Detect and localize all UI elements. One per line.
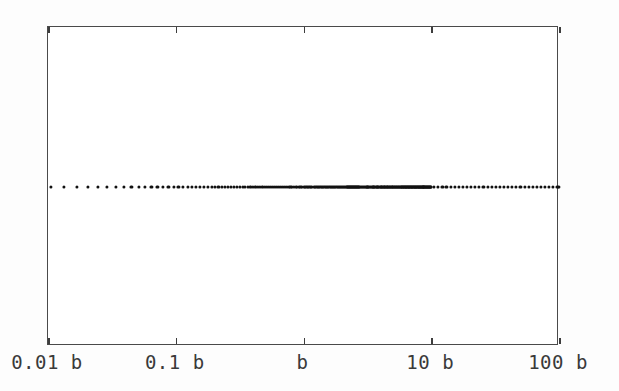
data-point (414, 185, 417, 188)
data-point (552, 185, 555, 188)
data-point (381, 185, 384, 188)
data-point (392, 185, 395, 188)
data-point (312, 185, 315, 188)
data-point (340, 185, 343, 188)
data-point (482, 185, 485, 188)
data-point (410, 185, 413, 188)
data-point (368, 185, 371, 188)
data-point (335, 185, 338, 188)
x-tick-top-0 (48, 27, 50, 33)
data-point (294, 185, 297, 188)
data-point (364, 185, 367, 188)
data-point (469, 185, 472, 188)
x-tick-bottom-0 (48, 338, 50, 344)
data-point (203, 185, 206, 188)
data-point (343, 185, 346, 188)
data-point (321, 185, 324, 188)
data-point (378, 185, 381, 188)
data-point (418, 185, 421, 188)
data-point (367, 185, 370, 188)
data-point (156, 185, 159, 188)
data-point (86, 185, 89, 188)
x-tick-label-4: 100 b (528, 351, 588, 373)
data-point (259, 185, 262, 188)
data-point (267, 185, 270, 188)
data-point (416, 185, 419, 188)
data-point (365, 185, 368, 188)
data-point (96, 185, 99, 188)
data-point (349, 185, 352, 188)
data-point (382, 185, 385, 188)
data-point (376, 185, 379, 188)
data-point (329, 185, 332, 188)
data-point (527, 185, 530, 188)
data-point (281, 185, 284, 188)
data-point (265, 185, 268, 188)
data-point (244, 185, 247, 188)
x-tick-label-3: 10 b (406, 351, 454, 373)
data-point (311, 185, 314, 188)
data-point (306, 185, 309, 188)
data-point (199, 185, 202, 188)
data-point (289, 185, 292, 188)
data-point (414, 185, 417, 188)
data-point (302, 185, 305, 188)
data-point (350, 185, 353, 188)
data-point (167, 185, 170, 188)
data-point (411, 185, 414, 188)
data-point (210, 185, 213, 188)
data-point (415, 185, 418, 188)
x-tick-bottom-1 (176, 338, 178, 344)
data-point (292, 185, 295, 188)
data-point (297, 185, 300, 188)
data-point (401, 185, 404, 188)
data-point (523, 185, 526, 188)
data-point (280, 185, 283, 188)
data-point (360, 185, 363, 188)
data-point (371, 185, 374, 188)
data-point (380, 185, 383, 188)
data-point (445, 185, 448, 188)
data-point (391, 185, 394, 188)
data-point (494, 185, 497, 188)
data-point (354, 185, 357, 188)
data-point (130, 185, 133, 188)
data-point (511, 185, 514, 188)
data-point (429, 185, 432, 188)
data-point (389, 185, 392, 188)
data-point (384, 185, 387, 188)
data-point (114, 185, 117, 188)
data-point (357, 185, 360, 188)
data-point (474, 185, 477, 188)
data-point (213, 185, 216, 188)
data-point (506, 185, 509, 188)
data-point (535, 185, 538, 188)
data-point (276, 185, 279, 188)
data-point (422, 185, 425, 188)
data-point (328, 185, 331, 188)
data-point (397, 185, 400, 188)
data-point (359, 185, 362, 188)
data-point (388, 185, 391, 188)
data-point (426, 185, 429, 188)
data-point (319, 185, 322, 188)
data-point (425, 185, 428, 188)
data-point (345, 185, 348, 188)
data-point (355, 185, 358, 188)
data-point (313, 185, 316, 188)
data-point (315, 185, 318, 188)
data-point (413, 185, 416, 188)
data-point (410, 185, 413, 188)
data-point (377, 185, 380, 188)
data-point (390, 185, 393, 188)
data-point (278, 185, 281, 188)
data-point (344, 185, 347, 188)
data-point (424, 185, 427, 188)
data-point (419, 185, 422, 188)
figure-root: 0.01 b0.1 bb10 b100 b (0, 0, 619, 391)
data-point (331, 185, 334, 188)
data-point (539, 185, 542, 188)
data-point (296, 185, 299, 188)
data-point (428, 185, 431, 188)
data-point (381, 185, 384, 188)
